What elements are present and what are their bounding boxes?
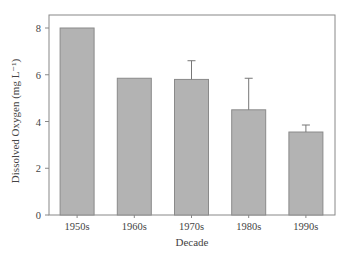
y-tick-label: 8 [36,23,41,34]
x-tick-label: 1970s [179,221,204,232]
x-tick-label: 1950s [65,221,90,232]
x-axis: 1950s1960s1970s1980s1990s [65,215,319,232]
bar-1950s [60,28,94,215]
bar-chart: 02468 1950s1960s1970s1980s1990s Decade D… [0,0,352,260]
y-axis: 02468 [36,23,49,221]
y-axis-title: Dissolved Oxygen (mg L⁻¹) [9,59,22,184]
bars [60,28,323,215]
y-tick-label: 4 [36,117,42,128]
y-tick-label: 6 [36,70,41,81]
bar-1960s [117,78,151,215]
x-tick-label: 1990s [293,221,318,232]
x-tick-label: 1980s [236,221,261,232]
bar-1970s [175,79,209,215]
x-tick-label: 1960s [122,221,147,232]
bar-1990s [289,132,323,215]
y-tick-label: 0 [36,210,41,221]
y-tick-label: 2 [36,163,41,174]
bar-1980s [232,110,266,215]
x-axis-title: Decade [176,236,209,248]
